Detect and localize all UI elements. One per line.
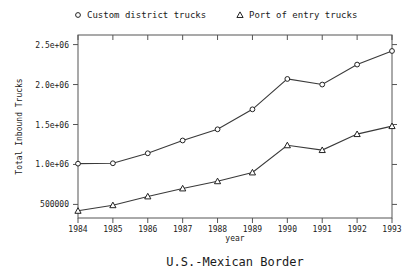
x-tick-label: 1984 (68, 225, 87, 234)
y-tick-label: 500000 (40, 200, 69, 209)
legend-label: Port of entry trucks (249, 10, 357, 20)
x-tick-label: 1986 (138, 225, 157, 234)
data-point (390, 49, 395, 54)
x-tick-label: 1990 (278, 225, 297, 234)
legend-marker-circle (76, 13, 81, 18)
data-point (215, 127, 220, 132)
data-point (320, 82, 325, 87)
x-tick-label: 1985 (103, 225, 122, 234)
series-line-circle (78, 51, 392, 164)
y-tick-label: 1.0e+06 (35, 160, 69, 169)
x-tick-label: 1992 (347, 225, 366, 234)
chart-title: U.S.-Mexican Border (166, 255, 303, 269)
series-line-triangle (78, 126, 392, 211)
data-point (145, 151, 150, 156)
data-point (355, 62, 360, 67)
y-tick-label: 2.5e+06 (35, 41, 69, 50)
x-tick-label: 1993 (382, 225, 401, 234)
data-point (389, 123, 395, 129)
x-tick-label: 1987 (173, 225, 192, 234)
x-axis-title: year (225, 234, 244, 243)
legend-marker-triangle (237, 12, 243, 18)
plot-frame (78, 35, 392, 218)
line-chart: 5000001.0e+061.5e+062.0e+062.5e+06198419… (0, 0, 416, 269)
y-axis-title: Total Inbound Trucks (15, 78, 24, 175)
x-tick-label: 1989 (243, 225, 262, 234)
data-point (250, 107, 255, 112)
data-point (180, 138, 185, 143)
data-point (110, 161, 115, 166)
data-point (285, 77, 290, 82)
data-point (76, 161, 81, 166)
chart-container: 5000001.0e+061.5e+062.0e+062.5e+06198419… (0, 0, 416, 269)
data-point (284, 142, 290, 148)
y-tick-label: 1.5e+06 (35, 121, 69, 130)
x-tick-label: 1988 (208, 225, 227, 234)
legend-label: Custom district trucks (87, 10, 206, 20)
y-tick-label: 2.0e+06 (35, 81, 69, 90)
x-tick-label: 1991 (313, 225, 332, 234)
